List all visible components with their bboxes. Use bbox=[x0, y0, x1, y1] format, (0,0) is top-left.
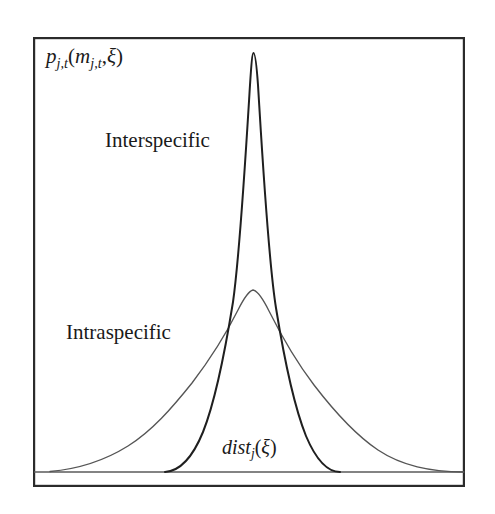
x-axis-label-xi: ξ bbox=[261, 436, 270, 458]
y-axis-label-sub2: j,t bbox=[90, 55, 102, 71]
x-axis-label-close-paren: ) bbox=[270, 436, 277, 458]
y-axis-label-sub1: j,t bbox=[57, 55, 69, 71]
interspecific-curve-label: Interspecific bbox=[105, 130, 210, 151]
intraspecific-curve-label: Intraspecific bbox=[66, 322, 171, 343]
y-axis-label-open-paren: ( bbox=[68, 44, 75, 68]
y-axis-label: pj,t(mj,t,ξ) bbox=[46, 46, 123, 70]
y-axis-label-arg: m bbox=[75, 44, 90, 68]
y-axis-label-close-paren: ) bbox=[116, 44, 123, 68]
y-axis-label-base: p bbox=[46, 44, 57, 68]
x-axis-label-base: dist bbox=[222, 436, 251, 458]
figure-root: pj,t(mj,t,ξ) distj(ξ) Interspecific Intr… bbox=[0, 0, 495, 514]
y-axis-label-xi: ξ bbox=[107, 44, 116, 68]
x-axis-label: distj(ξ) bbox=[222, 437, 277, 461]
